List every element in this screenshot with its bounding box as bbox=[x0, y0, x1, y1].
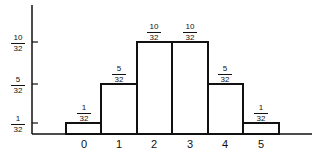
x-tick-label-0: 0 bbox=[74, 138, 94, 150]
denominator: 32 bbox=[109, 75, 129, 84]
denominator: 32 bbox=[8, 86, 28, 95]
bar-label-2: 10 32 bbox=[144, 23, 164, 42]
denominator: 32 bbox=[180, 33, 200, 42]
bar-3 bbox=[172, 42, 208, 134]
numerator: 10 bbox=[183, 23, 197, 33]
numerator: 10 bbox=[11, 34, 25, 44]
numerator: 1 bbox=[11, 115, 25, 125]
bar-1 bbox=[101, 84, 137, 134]
bar-4 bbox=[208, 84, 243, 134]
numerator: 5 bbox=[112, 65, 126, 75]
numerator: 1 bbox=[77, 104, 91, 114]
denominator: 32 bbox=[8, 125, 28, 134]
x-tick-label-5: 5 bbox=[251, 138, 271, 150]
denominator: 32 bbox=[251, 114, 271, 123]
bar-5 bbox=[243, 123, 279, 134]
bar-label-1: 5 32 bbox=[109, 65, 129, 84]
y-tick-label-1-32: 1 32 bbox=[8, 115, 28, 134]
x-tick-label-4: 4 bbox=[215, 138, 235, 150]
x-tick-label-1: 1 bbox=[109, 138, 129, 150]
bar-label-3: 10 32 bbox=[180, 23, 200, 42]
bar-label-5: 1 32 bbox=[251, 104, 271, 123]
bar-label-4: 5 32 bbox=[215, 65, 235, 84]
numerator: 1 bbox=[254, 104, 268, 114]
bar-2 bbox=[137, 42, 172, 134]
denominator: 32 bbox=[8, 44, 28, 53]
numerator: 5 bbox=[11, 76, 25, 86]
bar-0 bbox=[66, 123, 101, 134]
histogram-plot bbox=[0, 0, 328, 157]
denominator: 32 bbox=[144, 33, 164, 42]
x-tick-label-3: 3 bbox=[180, 138, 200, 150]
numerator: 10 bbox=[147, 23, 161, 33]
denominator: 32 bbox=[215, 75, 235, 84]
y-tick-label-10-32: 10 32 bbox=[8, 34, 28, 53]
numerator: 5 bbox=[218, 65, 232, 75]
y-tick-label-5-32: 5 32 bbox=[8, 76, 28, 95]
x-tick-label-2: 2 bbox=[144, 138, 164, 150]
denominator: 32 bbox=[74, 114, 94, 123]
bar-label-0: 1 32 bbox=[74, 104, 94, 123]
